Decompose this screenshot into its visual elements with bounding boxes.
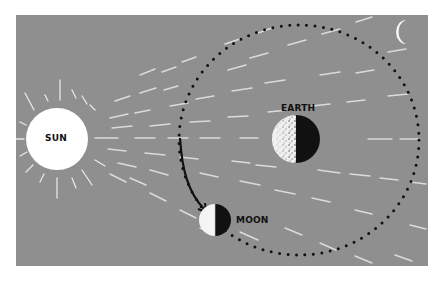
sun-label: SUN — [45, 133, 67, 143]
moon-label: MOON — [236, 215, 269, 225]
earth — [272, 115, 320, 163]
light-rays — [95, 17, 426, 263]
moon — [199, 204, 231, 236]
orbit-arrow — [180, 138, 206, 212]
crescent-moon-icon — [396, 20, 406, 44]
earth-label: EARTH — [281, 103, 315, 113]
